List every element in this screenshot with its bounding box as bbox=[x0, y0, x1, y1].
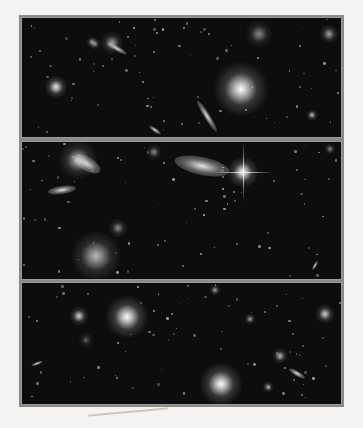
faint-galaxy bbox=[156, 32, 158, 34]
faint-galaxy bbox=[182, 265, 184, 267]
faint-galaxy bbox=[49, 65, 51, 67]
faint-galaxy bbox=[46, 131, 48, 133]
faint-galaxy bbox=[153, 28, 156, 31]
faint-galaxy bbox=[339, 302, 342, 305]
faint-galaxy bbox=[308, 247, 310, 249]
faint-galaxy bbox=[302, 28, 303, 29]
faint-galaxy bbox=[305, 145, 307, 147]
faint-galaxy bbox=[168, 340, 169, 341]
faint-galaxy bbox=[289, 70, 291, 72]
galaxy bbox=[324, 143, 336, 155]
faint-galaxy bbox=[268, 247, 270, 249]
faint-galaxy bbox=[62, 292, 65, 295]
galaxy bbox=[272, 348, 288, 364]
faint-galaxy bbox=[57, 176, 59, 178]
faint-galaxy bbox=[127, 36, 129, 38]
faint-galaxy bbox=[135, 45, 136, 46]
faint-galaxy bbox=[58, 270, 61, 273]
faint-galaxy bbox=[223, 195, 226, 198]
galaxy bbox=[209, 284, 221, 296]
faint-galaxy bbox=[193, 334, 196, 337]
faint-galaxy bbox=[133, 27, 135, 29]
faint-galaxy bbox=[183, 392, 186, 395]
faint-galaxy bbox=[203, 28, 206, 31]
faint-galaxy bbox=[102, 65, 104, 67]
galaxy-field-panel-top bbox=[21, 17, 342, 138]
faint-galaxy bbox=[125, 351, 126, 352]
faint-galaxy bbox=[220, 348, 222, 350]
galaxy bbox=[262, 381, 274, 393]
faint-galaxy bbox=[294, 150, 296, 152]
faint-galaxy bbox=[304, 179, 306, 181]
galaxy bbox=[58, 141, 98, 180]
faint-galaxy bbox=[303, 384, 304, 385]
faint-galaxy bbox=[116, 377, 118, 379]
faint-galaxy bbox=[128, 242, 130, 244]
faint-galaxy bbox=[253, 363, 256, 366]
faint-galaxy bbox=[257, 57, 259, 59]
faint-galaxy bbox=[267, 232, 269, 234]
faint-galaxy bbox=[326, 19, 328, 21]
faint-galaxy bbox=[293, 379, 295, 381]
faint-galaxy bbox=[132, 387, 134, 389]
faint-galaxy bbox=[236, 243, 238, 245]
diffraction-spike bbox=[243, 142, 244, 202]
galaxy-field-panel-bottom bbox=[21, 282, 342, 405]
faint-galaxy bbox=[154, 19, 156, 21]
faint-galaxy bbox=[301, 394, 303, 396]
faint-galaxy bbox=[115, 375, 116, 376]
faint-galaxy bbox=[146, 105, 148, 107]
faint-galaxy bbox=[284, 367, 286, 369]
faint-galaxy bbox=[40, 371, 42, 373]
faint-galaxy bbox=[323, 62, 326, 65]
faint-galaxy bbox=[302, 298, 303, 299]
faint-galaxy bbox=[153, 51, 155, 53]
galaxy bbox=[306, 109, 318, 121]
faint-galaxy bbox=[322, 216, 324, 218]
faint-galaxy bbox=[117, 342, 119, 344]
faint-galaxy bbox=[111, 58, 113, 60]
faint-galaxy bbox=[190, 55, 191, 56]
faint-galaxy bbox=[72, 83, 74, 85]
faint-galaxy bbox=[148, 331, 150, 333]
faint-galaxy bbox=[163, 129, 164, 130]
faint-galaxy bbox=[125, 69, 128, 72]
faint-galaxy bbox=[335, 70, 336, 71]
faint-galaxy bbox=[65, 37, 68, 40]
faint-galaxy bbox=[231, 45, 232, 46]
faint-galaxy bbox=[70, 381, 71, 382]
faint-galaxy bbox=[204, 296, 206, 298]
faint-galaxy bbox=[302, 345, 304, 347]
faint-galaxy bbox=[97, 104, 99, 106]
faint-galaxy bbox=[325, 365, 327, 367]
galaxy bbox=[105, 295, 149, 339]
faint-galaxy bbox=[335, 159, 338, 162]
faint-galaxy bbox=[316, 274, 319, 277]
faint-galaxy bbox=[61, 285, 64, 288]
faint-galaxy bbox=[58, 227, 61, 230]
faint-galaxy bbox=[139, 72, 140, 73]
faint-galaxy bbox=[316, 254, 318, 256]
faint-galaxy bbox=[227, 203, 229, 205]
faint-galaxy bbox=[39, 50, 41, 52]
faint-galaxy bbox=[134, 55, 136, 57]
faint-galaxy bbox=[176, 328, 177, 329]
faint-galaxy bbox=[48, 155, 50, 157]
galaxy bbox=[89, 38, 101, 50]
faint-galaxy bbox=[137, 286, 139, 288]
galaxy bbox=[245, 20, 273, 48]
faint-galaxy bbox=[158, 293, 159, 294]
faint-galaxy bbox=[22, 148, 24, 150]
faint-galaxy bbox=[97, 366, 100, 369]
faint-galaxy bbox=[41, 180, 42, 181]
faint-galaxy bbox=[25, 146, 27, 148]
elongated-galaxy bbox=[311, 260, 319, 270]
faint-galaxy bbox=[166, 317, 169, 320]
elongated-galaxy bbox=[31, 360, 43, 367]
galaxy bbox=[199, 362, 243, 405]
faint-galaxy bbox=[38, 127, 39, 128]
faint-galaxy bbox=[23, 264, 25, 266]
faint-galaxy bbox=[274, 122, 275, 123]
faint-galaxy bbox=[93, 70, 94, 71]
faint-galaxy bbox=[161, 369, 162, 370]
